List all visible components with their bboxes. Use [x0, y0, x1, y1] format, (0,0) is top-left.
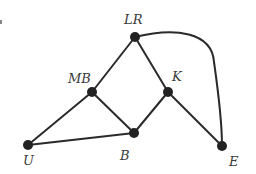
edge-k-b	[134, 92, 168, 133]
edge-mb-u	[28, 92, 92, 145]
label-k: K	[171, 69, 183, 84]
label-b: B	[119, 148, 130, 163]
edge-k-e	[168, 92, 222, 146]
vertex-e	[217, 141, 227, 151]
vertex-u	[23, 140, 33, 150]
vertex-b	[129, 128, 139, 138]
graph-diagram: LR MB K B U E	[0, 0, 256, 174]
label-mb: MB	[67, 71, 91, 86]
label-lr: LR	[123, 12, 143, 27]
edge-lr-mb	[92, 37, 135, 92]
edge-mb-b	[92, 92, 134, 133]
vertex-lr	[130, 32, 140, 42]
vertex-mb	[87, 87, 97, 97]
label-e: E	[228, 154, 239, 169]
edge-u-b	[28, 133, 134, 145]
label-u: U	[23, 153, 35, 168]
edge-lr-k	[135, 37, 168, 92]
stray-mark	[0, 20, 2, 24]
edges	[28, 32, 222, 146]
vertex-k	[163, 87, 173, 97]
edge-lr-e	[135, 32, 222, 146]
